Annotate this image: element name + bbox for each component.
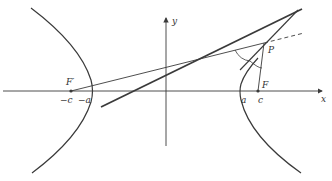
hyperbola-left-branch <box>31 8 93 173</box>
tick-c: c <box>258 95 263 105</box>
right-focus-dot <box>256 89 259 92</box>
right-focus-label: F <box>261 80 269 90</box>
tangent-line <box>101 9 302 107</box>
hyperbola-diagram: x y F′ F P −c −a a c <box>0 0 332 181</box>
left-focus-dot <box>69 89 72 92</box>
hyperbola-right-branch <box>240 58 301 173</box>
y-axis-label: y <box>171 16 178 26</box>
tick-neg-c: −c <box>60 95 73 105</box>
angle-arc-left <box>235 50 250 61</box>
point-p-label: P <box>267 45 275 55</box>
left-focus-label: F′ <box>65 77 74 87</box>
x-axis-label: x <box>321 94 326 104</box>
focal-line-extension <box>264 33 304 43</box>
tick-neg-a: −a <box>78 95 91 105</box>
tick-a: a <box>241 95 246 105</box>
